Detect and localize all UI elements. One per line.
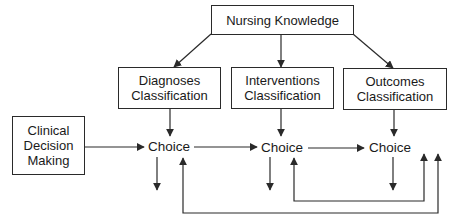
node-choice-1: Choice — [148, 139, 190, 155]
node-nursing-knowledge: Nursing Knowledge — [211, 5, 354, 35]
arrow-nk-to-diagnoses — [174, 34, 211, 67]
node-choice-3: Choice — [369, 140, 411, 156]
clinical-label-line1: Clinical — [28, 123, 70, 138]
interventions-label-line2: Classification — [244, 88, 321, 103]
node-interventions-classification: Interventions Classification — [231, 67, 334, 109]
arrow-nk-to-outcomes — [353, 34, 393, 68]
outcomes-label-line2: Classification — [357, 89, 434, 104]
node-diagnoses-classification: Diagnoses Classification — [118, 67, 221, 109]
diagnoses-label-line2: Classification — [131, 88, 208, 103]
clinical-label-line3: Making — [28, 153, 70, 168]
node-outcomes-classification: Outcomes Classification — [343, 68, 447, 110]
nursing-knowledge-label: Nursing Knowledge — [226, 13, 339, 28]
loop-outer — [183, 154, 438, 213]
outcomes-label-line1: Outcomes — [365, 74, 424, 89]
loop-inner — [294, 154, 424, 201]
node-clinical-decision-making: Clinical Decision Making — [12, 116, 85, 175]
node-choice-2: Choice — [261, 140, 303, 156]
clinical-label-line2: Decision — [24, 138, 74, 153]
interventions-label-line1: Interventions — [245, 73, 319, 88]
diagnoses-label-line1: Diagnoses — [139, 73, 200, 88]
